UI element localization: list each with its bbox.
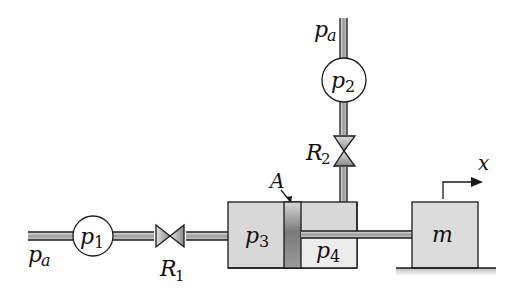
- valve-r1: R 1: [154, 225, 186, 285]
- svg-text:a: a: [327, 26, 337, 45]
- mass-label: m: [432, 222, 453, 247]
- vent-pipe: [340, 18, 347, 203]
- svg-text:p: p: [331, 68, 345, 93]
- hydraulic-diagram: p 1 R 1 p a p a p 2 R 2: [0, 0, 510, 288]
- pressure-node-p1: p 1: [73, 216, 113, 256]
- svg-text:p: p: [314, 17, 328, 42]
- svg-text:3: 3: [259, 232, 269, 251]
- label-r1-base: R: [159, 256, 177, 281]
- piston-rod: [301, 231, 413, 238]
- svg-text:2: 2: [321, 150, 331, 168]
- pressure-node-p2: p 2: [322, 58, 366, 102]
- svg-text:R: R: [305, 140, 323, 165]
- svg-text:A: A: [268, 169, 284, 193]
- svg-text:p: p: [245, 223, 259, 248]
- displacement-label: x: [478, 151, 489, 175]
- svg-text:2: 2: [345, 77, 355, 96]
- ambient-pressure-left: p a: [28, 242, 51, 270]
- label-p1-sub: 1: [94, 233, 104, 252]
- svg-text:4: 4: [330, 247, 340, 266]
- svg-text:a: a: [41, 251, 51, 270]
- svg-text:p: p: [28, 242, 42, 267]
- label-p1-base: p: [80, 224, 94, 249]
- area-label-a: A: [268, 169, 292, 203]
- piston: [284, 202, 301, 268]
- label-r1-sub: 1: [175, 267, 185, 285]
- supply-pipe: [28, 232, 229, 240]
- mass-block: m: [396, 202, 496, 276]
- svg-text:p: p: [316, 238, 330, 263]
- ambient-pressure-top: p a: [314, 17, 337, 45]
- displacement-arrow-x: x: [443, 151, 489, 199]
- valve-r2: R 2: [305, 135, 355, 168]
